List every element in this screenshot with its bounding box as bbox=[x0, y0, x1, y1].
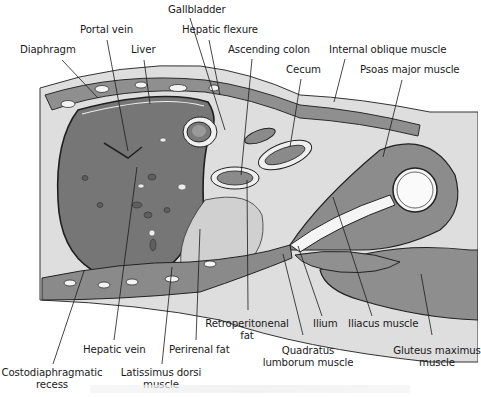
label-text: Gallbladder bbox=[168, 4, 226, 16]
gallbladder bbox=[183, 117, 217, 147]
label-text: Ascending colon bbox=[228, 44, 310, 56]
leader-line-internal-oblique-muscle bbox=[334, 59, 345, 102]
label-gallbladder: Gallbladder bbox=[168, 4, 226, 16]
label-text-line2: muscle bbox=[393, 357, 481, 369]
label-internal-oblique-muscle: Internal oblique muscle bbox=[329, 44, 446, 56]
label-hepatic-flexure: Hepatic flexure bbox=[182, 24, 258, 36]
label-text: Iliacus muscle bbox=[348, 318, 419, 330]
label-text: Liver bbox=[131, 44, 156, 56]
label-text: Psoas major muscle bbox=[360, 64, 460, 76]
label-text-line2: fat bbox=[205, 330, 289, 342]
label-text-line2: lumborum muscle bbox=[263, 357, 354, 369]
label-text: Cecum bbox=[286, 64, 321, 76]
label-text: Ilium bbox=[313, 318, 338, 330]
label-text: Diaphragm bbox=[20, 44, 76, 56]
label-gluteus-maximus-muscle: Gluteus maximusmuscle bbox=[393, 345, 481, 369]
label-hepatic-vein: Hepatic vein bbox=[83, 344, 146, 356]
label-cecum: Cecum bbox=[286, 64, 321, 76]
label-text: Portal vein bbox=[80, 24, 133, 36]
label-text: Latissimus dorsi bbox=[121, 367, 202, 379]
label-liver: Liver bbox=[131, 44, 156, 56]
label-text: Gluteus maximus bbox=[393, 345, 481, 357]
label-costodiaphragmatic-recess: Costodiaphragmaticrecess bbox=[1, 367, 102, 391]
label-text: Quadratus bbox=[263, 345, 354, 357]
label-ascending-colon: Ascending colon bbox=[228, 44, 310, 56]
figure-caption-faint bbox=[90, 385, 410, 393]
label-ilium: Ilium bbox=[313, 318, 338, 330]
label-text: Internal oblique muscle bbox=[329, 44, 446, 56]
label-text: Costodiaphragmatic bbox=[1, 367, 102, 379]
label-text-line2: recess bbox=[1, 379, 102, 391]
label-diaphragm: Diaphragm bbox=[20, 44, 76, 56]
label-perirenal-fat: Perirenal fat bbox=[169, 344, 230, 356]
label-retroperitonenal-fat: Retroperitonenalfat bbox=[205, 318, 289, 342]
label-iliacus-muscle: Iliacus muscle bbox=[348, 318, 419, 330]
ascending-colon bbox=[211, 167, 259, 189]
label-text: Retroperitonenal bbox=[205, 318, 289, 330]
label-text: Hepatic flexure bbox=[182, 24, 258, 36]
label-psoas-major-muscle: Psoas major muscle bbox=[360, 64, 460, 76]
label-text: Hepatic vein bbox=[83, 344, 146, 356]
label-portal-vein: Portal vein bbox=[80, 24, 133, 36]
label-text: Perirenal fat bbox=[169, 344, 230, 356]
label-quadratus-lumborum-muscle: Quadratuslumborum muscle bbox=[263, 345, 354, 369]
